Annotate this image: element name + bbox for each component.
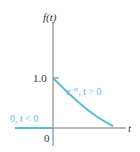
x-axis-label: t [128, 123, 131, 134]
origin-label: 0 [44, 133, 50, 144]
tick-label-one: 1.0 [33, 73, 47, 84]
label-condition: , t > 0 [78, 86, 101, 97]
negative-region-label: 0, t < 0 [10, 114, 38, 124]
label-exponent: −at [70, 86, 78, 92]
plot-area [0, 0, 140, 152]
y-axis-label: f(t) [43, 12, 56, 23]
positive-region-label: e−at, t > 0 [66, 86, 102, 97]
